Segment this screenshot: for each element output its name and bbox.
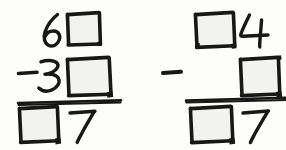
minus-sign-left <box>19 72 38 73</box>
answer-box-subtrahend-ones-left[interactable] <box>67 57 113 97</box>
answer-box-subtrahend-ones-right[interactable] <box>240 55 282 98</box>
digit-six-minuend-tens <box>44 15 60 47</box>
answer-box-difference-tens-left[interactable] <box>19 107 61 145</box>
digit-four-minuend-ones <box>241 15 268 47</box>
worksheet-canvas: 6 − 3 7 4 − 7 <box>0 0 286 150</box>
answer-box-difference-tens-right[interactable] <box>190 106 235 144</box>
digit-three-subtrahend-tens <box>39 60 59 91</box>
answer-rule-left <box>18 100 121 105</box>
answer-box-minuend-ones-left[interactable] <box>67 13 102 47</box>
problem-left <box>18 13 121 145</box>
minus-sign-right <box>163 72 181 73</box>
problem-right <box>163 12 286 144</box>
answer-rule-right <box>186 98 286 103</box>
digit-seven-difference-ones-left <box>70 111 95 142</box>
answer-box-minuend-tens-right[interactable] <box>195 12 237 48</box>
digit-seven-difference-ones-right <box>243 111 269 143</box>
